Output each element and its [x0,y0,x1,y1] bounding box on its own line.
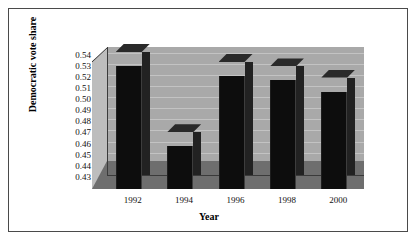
bar-front-face [167,146,193,189]
bar-1994 [167,132,193,189]
y-axis-title: Democratic vote share [27,5,38,125]
y-axis-tick-labels: 0.430.440.450.460.470.480.490.500.510.52… [55,49,91,187]
bar-1992 [116,52,142,189]
bar-chart: Democratic vote share 0.430.440.450.460.… [9,9,409,233]
bar-side-face [142,52,150,175]
x-axis-tick-label: 1998 [278,195,296,205]
y-axis-tick-label: 0.51 [75,83,91,92]
y-axis-tick-label: 0.44 [75,161,91,170]
bar-side-face [193,132,201,175]
y-axis-tick-label: 0.43 [75,173,91,182]
y-axis-tick-label: 0.45 [75,150,91,159]
y-axis-tick-label: 0.48 [75,117,91,126]
bar-front-face [219,76,245,189]
y-axis-tick-label: 0.47 [75,128,91,137]
y-axis-tick-label: 0.54 [75,50,91,59]
axis-corner-diagonal [92,47,108,62]
bar-side-face [347,78,355,175]
plot-area [92,47,364,189]
x-axis-tick-label: 2000 [329,195,347,205]
y-axis-tick-label: 0.46 [75,139,91,148]
y-axis-tick-label: 0.50 [75,95,91,104]
x-axis-title: Year [9,211,409,222]
y-axis-tick-label: 0.49 [75,106,91,115]
y-axis-line [107,47,108,175]
bar-front-face [116,66,142,189]
x-axis-tick-label: 1994 [175,195,193,205]
bar-side-face [245,62,253,175]
x-axis-tick-label: 1992 [124,195,142,205]
x-axis-tick-label: 1996 [227,195,245,205]
y-axis-tick-label: 0.53 [75,61,91,70]
chart-frame: Democratic vote share 0.430.440.450.460.… [8,8,408,232]
bar-front-face [270,80,296,189]
bar-front-face [321,92,347,189]
bar-2000 [321,78,347,189]
bar-side-face [296,66,304,175]
bar-1998 [270,66,296,189]
chart-page: Democratic vote share 0.430.440.450.460.… [0,0,418,242]
bar-1996 [219,62,245,189]
x-axis-tick-labels: 19921994199619982000 [92,195,364,209]
y-axis-tick-label: 0.52 [75,72,91,81]
